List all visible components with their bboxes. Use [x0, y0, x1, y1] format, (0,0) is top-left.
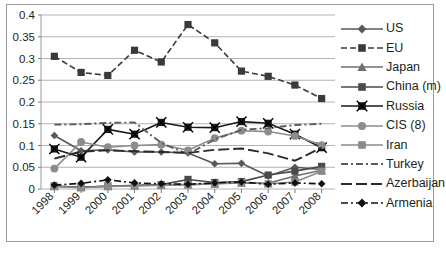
legend-key-diamond-dash-dot [340, 196, 384, 210]
data-point-marker [51, 132, 59, 140]
y-axis-tick-label: 0 [29, 183, 35, 195]
data-point-marker [358, 24, 367, 33]
data-point-marker [211, 39, 218, 46]
y-axis-tick-label: 0.15 [13, 118, 35, 130]
data-point-marker [236, 116, 246, 126]
data-point-marker [318, 180, 326, 188]
x-axis-tick-label: 2002 [136, 190, 163, 217]
x-axis-tick-label: 2008 [296, 190, 323, 217]
data-point-marker [358, 44, 366, 52]
data-point-marker [318, 168, 325, 175]
data-point-marker [291, 132, 299, 140]
legend-key-square-dashed [340, 41, 384, 55]
legend-label: Turkey [386, 158, 424, 171]
data-point-marker [358, 199, 367, 208]
legend-item-eu[interactable]: EU [340, 38, 446, 57]
legend-item-azerbaijan[interactable]: Azerbaijan [340, 174, 446, 193]
y-axis-tick-label: 0.25 [13, 74, 35, 86]
data-point-marker [131, 47, 138, 54]
legend-item-japan[interactable]: Japan [340, 58, 446, 77]
legend-item-iran[interactable]: Iran [340, 135, 446, 154]
legend-key-none-dash-dot [340, 157, 384, 171]
data-point-marker [291, 168, 298, 175]
data-point-marker [76, 152, 86, 162]
legend-label: China (m) [386, 80, 441, 93]
data-point-marker [291, 81, 298, 88]
legend-label: US [386, 22, 403, 35]
legend-item-cis-8[interactable]: CIS (8) [340, 116, 446, 135]
data-point-marker [263, 118, 273, 128]
data-point-marker [104, 183, 111, 190]
data-point-marker [158, 58, 165, 65]
data-point-marker [238, 160, 246, 168]
y-axis-tick-label: 0.2 [19, 96, 35, 108]
x-axis-tick-label: 2004 [190, 190, 217, 217]
data-point-marker [77, 138, 85, 146]
y-axis-tick-label: 0.4 [19, 9, 36, 21]
data-point-marker [129, 129, 139, 139]
x-axis-tick-label: 2000 [83, 190, 110, 217]
data-point-marker [357, 101, 368, 112]
data-point-marker [358, 83, 366, 91]
legend-item-armenia[interactable]: Armenia [340, 194, 446, 213]
legend-key-square-solid [340, 80, 384, 94]
legend-key-triangle-solid [340, 60, 384, 74]
legend-label: Russia [386, 100, 424, 113]
data-point-marker [77, 69, 84, 76]
legend-item-us[interactable]: US [340, 19, 446, 38]
data-point-marker [211, 160, 219, 168]
data-point-marker [50, 165, 58, 173]
legend-key-diamond-solid [340, 22, 384, 36]
x-axis-tick-label: 2006 [243, 190, 270, 217]
data-point-marker [156, 117, 166, 127]
data-point-marker [318, 95, 325, 102]
data-point-marker [265, 171, 272, 178]
data-point-marker [184, 21, 191, 28]
legend-label: Azerbaijan [386, 177, 445, 190]
data-point-marker [51, 53, 58, 60]
legend-key-none-long-dash [340, 177, 384, 191]
data-point-marker [183, 122, 193, 132]
series-line [54, 25, 321, 99]
data-point-marker [358, 141, 366, 149]
legend-key-circle-solid [340, 119, 384, 133]
legend-label: Armenia [386, 197, 433, 210]
legend-item-turkey[interactable]: Turkey [340, 155, 446, 174]
series-eu [51, 21, 325, 102]
data-point-marker [104, 72, 111, 79]
x-axis-tick-label: 2003 [163, 190, 190, 217]
legend-key-x-square-solid [340, 99, 384, 113]
x-axis-tick-label: 2005 [216, 190, 243, 217]
y-axis-tick-label: 0.3 [19, 53, 35, 65]
legend-label: Iran [386, 139, 408, 152]
chart-legend: USEUJapanChina (m)RussiaCIS (8)IranTurke… [340, 19, 446, 213]
legend-label: Japan [386, 61, 420, 74]
data-point-marker [103, 124, 113, 134]
data-point-marker [358, 122, 366, 130]
data-point-marker [265, 73, 272, 80]
legend-key-square-solid [340, 138, 384, 152]
x-axis-tick-label: 2001 [109, 190, 136, 217]
data-point-marker [49, 144, 59, 154]
data-point-marker [238, 68, 245, 75]
x-axis-tick-label: 1999 [56, 190, 83, 217]
legend-label: EU [386, 42, 403, 55]
x-axis-tick-label: 2007 [270, 190, 297, 217]
legend-label: CIS (8) [386, 119, 426, 132]
data-point-marker [131, 142, 139, 150]
y-axis-tick-label: 0.35 [13, 31, 35, 43]
chart-frame: 00.050.10.150.20.250.30.350.419981999200… [6, 4, 434, 242]
y-axis-tick-label: 0.1 [19, 140, 35, 152]
y-axis-tick-label: 0.05 [13, 161, 35, 173]
legend-item-china-m[interactable]: China (m) [340, 77, 446, 96]
data-point-marker [210, 123, 220, 133]
legend-item-russia[interactable]: Russia [340, 97, 446, 116]
